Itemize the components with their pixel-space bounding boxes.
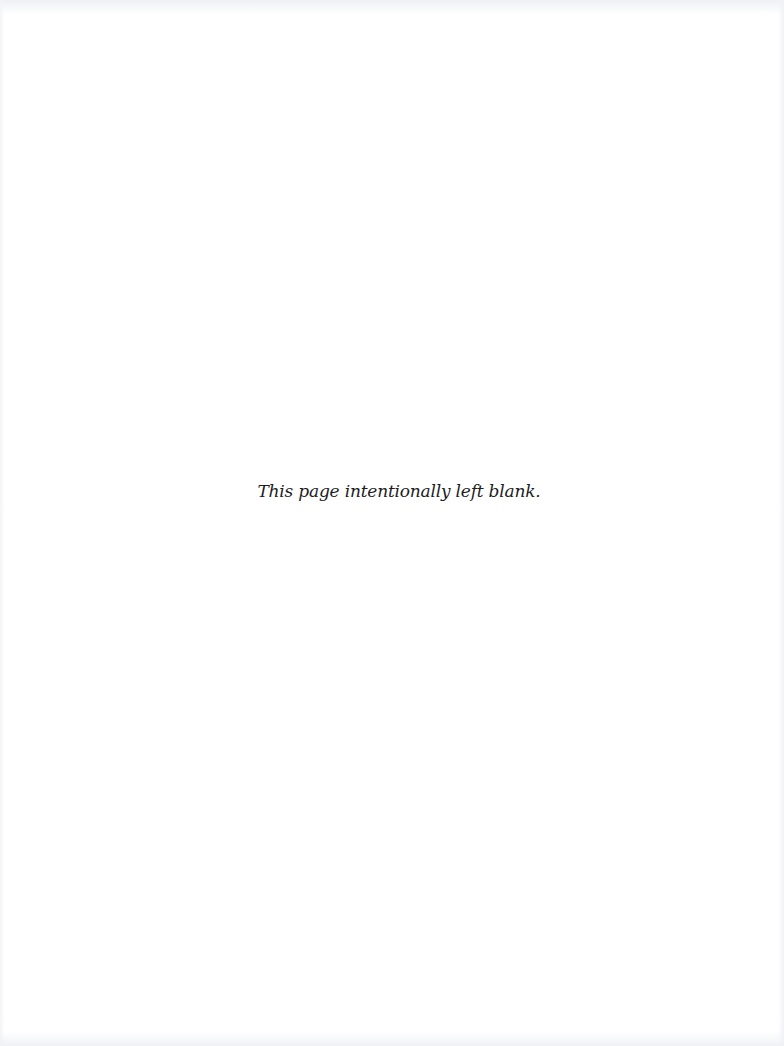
document-page: This page intentionally left blank. <box>0 0 784 1046</box>
page-left-edge <box>0 0 5 1046</box>
page-right-edge <box>778 0 784 1046</box>
page-bottom-edge <box>0 1032 784 1046</box>
blank-page-notice: This page intentionally left blank. <box>0 480 784 502</box>
page-top-edge <box>0 0 784 14</box>
